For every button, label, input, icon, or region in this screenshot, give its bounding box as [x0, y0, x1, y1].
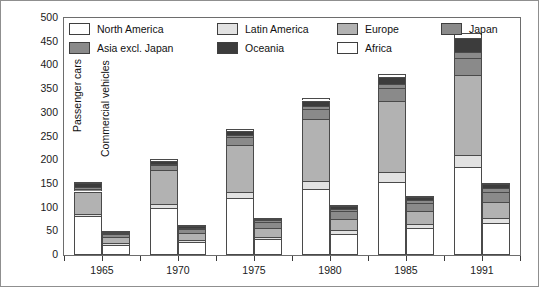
y-axis-labels: 500450400350300250200150100500 — [10, 17, 58, 255]
bar-segment-north-america — [406, 228, 434, 255]
x-axis-label-1991: 1991 — [452, 264, 512, 276]
legend-item: Oceania — [217, 41, 284, 54]
x-axis-tick-mark — [216, 256, 217, 261]
bar-segment-asia-excl-japan — [406, 200, 434, 203]
bar-segment-latin-america — [178, 240, 206, 242]
bar-segment-oceania — [330, 206, 358, 208]
bar-segment-japan — [406, 203, 434, 212]
bar-segment-north-america — [102, 245, 130, 255]
bar-segment-africa — [482, 183, 510, 184]
legend-label: Europe — [365, 23, 399, 35]
bar-segment-asia-excl-japan — [74, 187, 102, 189]
legend-swatch-europe — [337, 23, 358, 35]
legend-item: Africa — [337, 41, 392, 54]
bar-segment-asia-excl-japan — [482, 188, 510, 193]
bar-segment-oceania — [378, 77, 406, 84]
bar-segment-africa — [406, 196, 434, 197]
bar-segment-oceania — [406, 197, 434, 200]
legend-item: Latin America — [217, 22, 309, 35]
legend-swatch-japan — [441, 23, 462, 35]
legend-label: Japan — [469, 23, 498, 35]
bar-segment-oceania — [226, 131, 254, 135]
y-axis-tick-label: 500 — [40, 12, 58, 22]
bar-segment-europe — [406, 211, 434, 224]
bar-segment-europe — [150, 170, 178, 204]
legend-item: Asia excl. Japan — [69, 41, 173, 54]
bar-segment-oceania — [102, 232, 130, 233]
x-axis-tick-mark — [520, 256, 521, 261]
legend-swatch-asia-excl-japan — [69, 42, 90, 54]
bar-segment-north-america — [150, 208, 178, 255]
x-axis-label-1970: 1970 — [148, 264, 208, 276]
bar-segment-north-america — [378, 182, 406, 255]
y-axis-tick-label: 0 — [52, 249, 58, 259]
bar-segment-latin-america — [150, 204, 178, 208]
bar-segment-latin-america — [102, 243, 130, 245]
bar-segment-japan — [330, 211, 358, 219]
bar-segment-north-america — [226, 198, 254, 255]
bar-segment-asia-excl-japan — [302, 106, 330, 109]
y-axis-tick-label: 450 — [40, 36, 58, 46]
bar-segment-africa — [226, 129, 254, 131]
bar-segment-africa — [254, 218, 282, 219]
legend-label: Africa — [365, 42, 392, 54]
bar-segment-europe — [178, 233, 206, 240]
legend-label: North America — [97, 23, 164, 35]
bar-segment-north-america — [302, 189, 330, 255]
x-axis-tick-mark — [64, 256, 65, 261]
bar-segment-latin-america — [330, 230, 358, 234]
bar-segment-oceania — [254, 219, 282, 221]
bar-segment-europe — [482, 202, 510, 217]
bar-segment-oceania — [482, 184, 510, 188]
bar-segment-japan — [102, 234, 130, 237]
bar-segment-japan — [226, 137, 254, 145]
bar-segment-europe — [454, 75, 482, 156]
bar-segment-japan — [482, 192, 510, 202]
legend-label: Asia excl. Japan — [97, 42, 173, 54]
bar-segment-japan — [254, 222, 282, 228]
bar-segment-oceania — [74, 183, 102, 186]
series-group-label-passenger-cars: Passenger cars — [71, 59, 83, 132]
bar-segment-asia-excl-japan — [102, 233, 130, 234]
x-axis-tick-mark-minor — [102, 256, 103, 261]
legend-label: Oceania — [245, 42, 284, 54]
y-axis-tick-label: 100 — [40, 202, 58, 212]
bar-segment-africa — [74, 182, 102, 183]
bar-segment-latin-america — [378, 172, 406, 181]
bar-segment-europe — [102, 237, 130, 242]
x-axis-tick-mark-minor — [330, 256, 331, 261]
x-axis-label-1965: 1965 — [72, 264, 132, 276]
bar-segment-africa — [378, 74, 406, 77]
legend-item: Japan — [441, 22, 498, 35]
bar-segment-asia-excl-japan — [178, 228, 206, 229]
x-axis-tick-mark — [292, 256, 293, 261]
bar-segment-oceania — [150, 161, 178, 164]
x-axis-tick-mark — [368, 256, 369, 261]
bar-segment-japan — [302, 109, 330, 119]
bar-segment-north-america — [74, 216, 102, 255]
bar-segment-latin-america — [254, 237, 282, 240]
x-axis-tick-mark-minor — [254, 256, 255, 261]
y-axis-tick-label: 50 — [46, 225, 58, 235]
legend-label: Latin America — [245, 23, 309, 35]
bar-segment-africa — [302, 98, 330, 100]
bar-segment-africa — [178, 225, 206, 226]
bar-segment-europe — [330, 219, 358, 230]
bar-segment-japan — [74, 189, 102, 192]
bar-segment-latin-america — [482, 218, 510, 223]
x-axis-label-1980: 1980 — [300, 264, 360, 276]
bar-segment-japan — [378, 88, 406, 101]
bar-segment-africa — [102, 231, 130, 232]
bar-segment-north-america — [178, 242, 206, 255]
bar-segment-asia-excl-japan — [226, 135, 254, 137]
x-axis-tick-mark-minor — [178, 256, 179, 261]
x-axis-tick-mark — [444, 256, 445, 261]
x-axis-tick-mark-minor — [406, 256, 407, 261]
y-axis-tick-label: 250 — [40, 131, 58, 141]
chart-screenshot: 500450400350300250200150100500 196519701… — [0, 0, 541, 289]
bar-segment-north-america — [330, 234, 358, 255]
x-axis-tick-mark — [140, 256, 141, 261]
x-axis-tick-mark-minor — [482, 256, 483, 261]
y-axis-tick-label: 150 — [40, 178, 58, 188]
series-group-label-commercial-vehicles: Commercial vehicles — [99, 60, 111, 157]
